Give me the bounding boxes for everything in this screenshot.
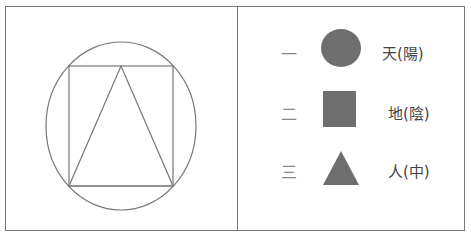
square-icon [323,91,357,127]
numeral-two: 二 [274,101,304,125]
numeral-three: 三 [274,159,304,183]
label-earth: 地(陰) [388,102,430,123]
legend-row-human: 三 人(中) [238,146,464,196]
left-panel [6,7,237,230]
label-human: 人(中) [388,160,430,181]
circle-icon [319,28,363,68]
label-heaven: 天(陽) [382,42,424,63]
numeral-one: 一 [274,41,304,65]
inner-triangle-icon [69,66,173,186]
nested-shapes-figure [0,0,237,240]
legend-row-earth: 二 地(陰) [238,88,464,138]
legend-row-heaven: 一 天(陽) [238,28,464,78]
triangle-icon [322,150,360,186]
inner-square-icon [69,66,173,186]
